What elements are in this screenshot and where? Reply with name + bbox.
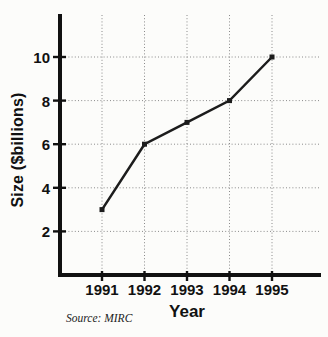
line-chart-figure: 246810 19911992199319941995 Size ($billi… (0, 0, 328, 337)
x-tick-label: 1995 (250, 282, 294, 297)
data-point-marker (270, 55, 275, 60)
y-tick-label: 10 (14, 50, 50, 65)
y-tick-label: 2 (14, 224, 50, 239)
x-axis-title: Year (147, 302, 227, 322)
data-point-marker (142, 142, 147, 147)
data-point-marker (227, 98, 232, 103)
source-note: Source: MIRC (66, 312, 132, 324)
data-point-marker (100, 207, 105, 212)
x-tick-label: 1992 (123, 282, 167, 297)
data-point-marker (185, 120, 190, 125)
y-axis-title: Size ($billions) (9, 80, 29, 220)
x-tick-label: 1991 (80, 282, 124, 297)
x-tick-label: 1994 (208, 282, 252, 297)
x-tick-label: 1993 (165, 282, 209, 297)
